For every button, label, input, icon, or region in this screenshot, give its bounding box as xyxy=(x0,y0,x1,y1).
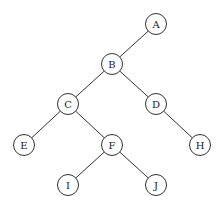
tree-nodes: ABCDEFHIJ xyxy=(14,14,211,196)
node-label: B xyxy=(108,59,115,70)
node-label: C xyxy=(64,99,72,110)
node-H: H xyxy=(190,135,211,156)
node-label: J xyxy=(153,180,158,191)
node-label: E xyxy=(20,140,27,151)
node-label: I xyxy=(66,180,70,191)
node-label: F xyxy=(109,140,116,151)
tree-edges xyxy=(24,24,200,185)
node-F: F xyxy=(102,135,123,156)
node-D: D xyxy=(146,94,167,115)
node-label: D xyxy=(152,99,160,110)
node-A: A xyxy=(146,14,167,35)
tree-diagram: ABCDEFHIJ xyxy=(0,0,224,208)
node-C: C xyxy=(58,94,79,115)
node-B: B xyxy=(102,54,123,75)
node-label: A xyxy=(151,19,160,30)
node-E: E xyxy=(14,135,35,156)
node-label: H xyxy=(196,140,205,151)
node-I: I xyxy=(58,175,79,196)
node-J: J xyxy=(146,175,167,196)
